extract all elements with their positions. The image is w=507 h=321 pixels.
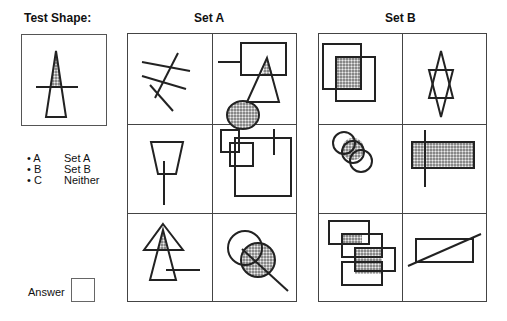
figure-rect-diagonal [403,214,486,302]
set-a-cell-5 [128,214,212,302]
set-b-grid [318,33,487,302]
answer-input[interactable] [71,278,95,302]
figure-triangles-line [128,214,212,302]
set-b-cell-2 [403,34,486,124]
set-a-cell-1 [128,34,212,124]
set-a-grid [127,33,297,302]
figure-dotted-rect-line [403,125,486,213]
set-b-cell-1 [319,34,402,124]
figure-overlapping-squares [213,125,297,213]
bullet-icon: • [27,174,34,186]
test-shape-box [21,34,107,126]
set-a-title: Set A [194,11,224,25]
option-c[interactable]: • C [27,175,42,186]
set-b-cell-4 [403,125,486,213]
figure-trapezoid-line [128,125,212,213]
test-shape-figure [22,35,108,127]
figure-overlapping-rects [319,214,402,302]
answer-label: Answer [28,286,65,298]
set-a-cell-2 [213,34,297,124]
figure-crossing-lines [128,34,212,124]
figure-three-circles [319,125,402,213]
set-a-cell-4 [213,125,297,213]
option-c-label: Neither [64,175,99,186]
test-shape-title: Test Shape: [24,11,91,25]
figure-star-of-david [403,34,486,124]
set-a-cell-3 [128,125,212,213]
set-b-cell-5 [319,214,402,302]
set-b-title: Set B [385,11,416,25]
set-b-cell-6 [403,214,486,302]
figure-overlapping-squares-dotted [319,34,402,124]
set-b-cell-3 [319,125,402,213]
figure-circles-diagonal [213,214,297,302]
set-a-cell-6 [213,214,297,302]
figure-rect-triangle-circle [213,34,297,124]
